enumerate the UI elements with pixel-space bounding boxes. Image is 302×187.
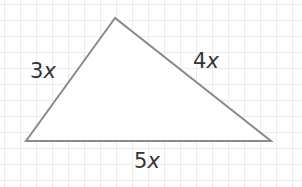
side-label-bottom: 5x: [134, 151, 160, 172]
triangle: [26, 18, 271, 141]
side-label-left: 3x: [30, 61, 56, 82]
side-label-bottom-coefficient: 5: [134, 149, 147, 173]
graph-paper-background: 3x 4x 5x: [0, 0, 302, 187]
side-label-right: 4x: [193, 51, 219, 72]
side-label-left-variable: x: [43, 59, 55, 83]
side-label-right-variable: x: [206, 49, 218, 73]
side-label-right-coefficient: 4: [193, 49, 206, 73]
side-label-bottom-variable: x: [147, 149, 159, 173]
side-label-left-coefficient: 3: [30, 59, 43, 83]
